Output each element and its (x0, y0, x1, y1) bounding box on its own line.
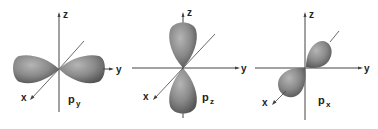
orbital-lobe-front (278, 68, 306, 98)
y-axis-arrow-icon (358, 67, 363, 70)
orbital-lobe-negative-y (13, 55, 59, 83)
px-orbital-diagram: z y x p x (250, 0, 378, 129)
z-axis-arrow-icon (182, 12, 185, 17)
y-axis-arrow-icon (109, 68, 114, 71)
orbital-label-main: p (68, 93, 75, 105)
orbital-label-sub: y (76, 99, 81, 108)
pz-orbital-diagram: z y x p z (126, 0, 252, 129)
y-axis-arrow-icon (235, 67, 240, 70)
z-axis-label: z (309, 9, 314, 20)
y-axis-label: y (364, 63, 370, 74)
py-orbital-diagram: z y x p y (0, 0, 126, 129)
orbital-lobe-back (306, 41, 332, 68)
orbital-label-main: p (202, 91, 209, 103)
orbital-label-sub: x (326, 100, 331, 109)
x-axis-label: x (262, 97, 268, 108)
z-axis-label: z (187, 7, 192, 18)
orbital-panel-px: z y x p x (250, 0, 378, 129)
x-axis (274, 91, 286, 103)
orbital-label-main: p (318, 94, 325, 106)
y-axis-label: y (241, 63, 247, 74)
z-axis-label: z (63, 9, 68, 20)
orbital-panel-pz: z y x p z (126, 0, 252, 129)
orbital-label-sub: z (210, 97, 214, 106)
orbital-lobe-negative-z (169, 68, 197, 114)
orbital-lobe-positive-y (59, 55, 105, 83)
orbital-panel-py: z y x p y (0, 0, 126, 129)
y-axis-label: y (116, 64, 122, 75)
x-axis-label: x (21, 92, 27, 103)
x-axis-back (330, 31, 339, 42)
z-axis-arrow-icon (304, 12, 307, 17)
z-axis-arrow-icon (58, 12, 61, 17)
orbital-lobe-positive-z (169, 23, 197, 69)
x-axis-label: x (143, 91, 149, 102)
